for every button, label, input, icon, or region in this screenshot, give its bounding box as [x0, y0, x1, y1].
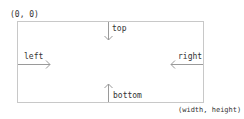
bottom-label: bottom	[113, 91, 142, 100]
left-arrow-icon	[18, 61, 50, 69]
right-arrow-icon	[171, 61, 203, 69]
extent-label: (width, height)	[178, 106, 241, 115]
right-label: right	[178, 52, 202, 61]
origin-label: (0, 0)	[10, 10, 39, 19]
container-box	[18, 22, 204, 103]
left-label: left	[24, 52, 43, 61]
bottom-arrow-icon	[105, 84, 113, 102]
top-label: top	[112, 24, 126, 33]
